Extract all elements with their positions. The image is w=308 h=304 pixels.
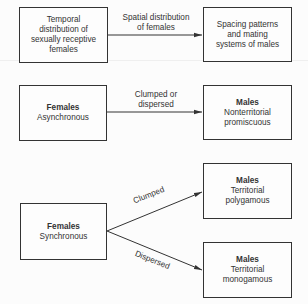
temporal-distribution-box: Temporal distribution of sexually recept… xyxy=(19,7,108,63)
spacing-patterns-box: Spacing patterns and mating systems of m… xyxy=(203,7,292,62)
box-line: monogamous xyxy=(223,275,273,285)
box-line: Nonterritorial xyxy=(224,108,271,118)
box-line: and mating xyxy=(227,30,268,40)
females-asynchronous-box: Females Asynchronous xyxy=(19,85,107,141)
box-line: Spacing patterns xyxy=(217,20,278,30)
box-title: Males xyxy=(236,98,259,108)
box-title: Females xyxy=(47,222,80,232)
box-line: Temporal xyxy=(47,15,81,25)
females-synchronous-box: Females Synchronous xyxy=(20,203,107,260)
box-line: polygamous xyxy=(225,196,269,206)
spatial-distribution-label: Spatial distribution of females xyxy=(110,13,202,33)
box-line: systems of males xyxy=(216,40,279,50)
box-line: females xyxy=(49,45,78,55)
box-line: Asynchronous xyxy=(37,113,89,123)
box-line: distribution of xyxy=(39,25,88,35)
box-line: Territorial xyxy=(231,265,265,275)
box-title: Males xyxy=(236,176,259,186)
box-line: Territorial xyxy=(231,186,265,196)
box-line: promiscuous xyxy=(224,118,270,128)
clumped-or-dispersed-label: Clumped or dispersed xyxy=(110,90,202,110)
males-nonterritorial-box: Males Nonterritorial promiscuous xyxy=(203,85,292,140)
males-polygamous-box: Males Territorial polygamous xyxy=(203,163,292,219)
box-line: sexually receptive xyxy=(31,35,96,45)
box-line: Synchronous xyxy=(40,232,88,242)
box-title: Males xyxy=(236,255,259,265)
box-title: Females xyxy=(47,103,80,113)
males-monogamous-box: Males Territorial monogamous xyxy=(203,242,292,298)
